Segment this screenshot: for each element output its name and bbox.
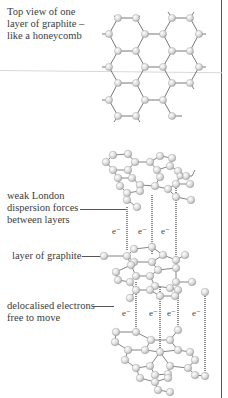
graphite-diagram: e⁻ e⁻ e⁻ e⁻ e⁻ e⁻ e⁻: [0, 0, 228, 398]
electron-label: e⁻: [167, 308, 176, 318]
honeycomb-top-view: [102, 12, 206, 122]
electron-label: e⁻: [138, 226, 147, 236]
bottom-layer-atoms: [111, 326, 209, 396]
electron-label: e⁻: [161, 226, 170, 236]
electron-label: e⁻: [122, 308, 131, 318]
electron-label: e⁻: [149, 308, 158, 318]
electron-label: e⁻: [112, 226, 121, 236]
top-layer-atoms: [102, 150, 195, 211]
electron-label: e⁻: [192, 308, 201, 318]
